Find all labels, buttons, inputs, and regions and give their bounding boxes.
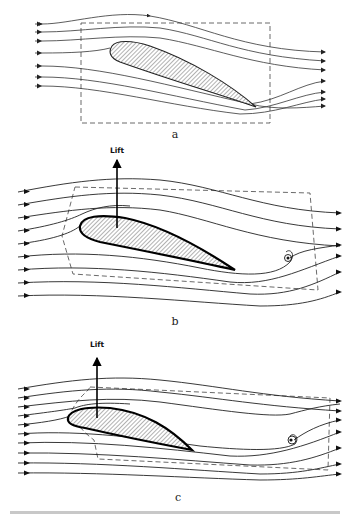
streamlines: [18, 378, 342, 480]
panel-a: a: [35, 15, 326, 141]
lift-label: Lift: [110, 146, 125, 155]
panel-label-c: c: [175, 491, 181, 504]
panel-c: Lift c: [18, 340, 342, 504]
airfoil-flow-figure: a: [0, 0, 352, 514]
panel-b: Lift b: [18, 146, 342, 328]
panel-label-b: b: [171, 315, 178, 328]
lift-label: Lift: [90, 340, 105, 349]
airfoil: [80, 216, 235, 270]
panel-label-a: a: [172, 128, 179, 141]
airfoil: [68, 407, 192, 450]
